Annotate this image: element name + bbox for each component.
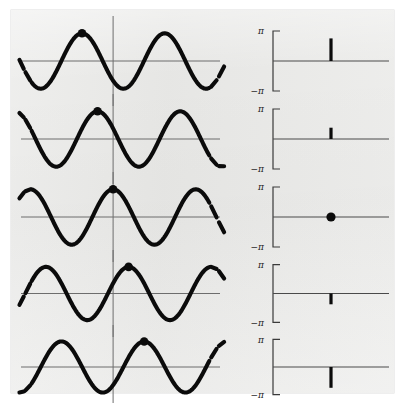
waveform-continuation-dash-right [219, 66, 224, 76]
phase-tick-label-neg-pi: −π [251, 242, 266, 252]
waveform-peak-marker [140, 337, 149, 346]
figure-panel: π−ππ−ππ−ππ−ππ−π [11, 10, 394, 393]
waveform-continuation-dash-left [25, 72, 30, 80]
phase-panel: π−π [243, 178, 393, 256]
waveform-continuation-dash-right [211, 159, 216, 165]
phase-panel: π−π [243, 100, 393, 178]
waveform-continuation-dash-left [25, 385, 30, 390]
phase-tick-label-pi: π [257, 26, 265, 36]
waveform-continuation-dash-left [19, 297, 23, 305]
waveform-peak-marker [93, 107, 102, 116]
waveform-continuation-dash-right [219, 342, 224, 346]
waveform-panel [13, 331, 228, 403]
waveform-continuation-dash-left [19, 392, 23, 393]
phase-tick-label-pi: π [257, 182, 265, 192]
waveform-peak-marker [109, 185, 118, 194]
figure-row: π−π [11, 331, 394, 403]
phase-tick-label-pi: π [257, 260, 265, 270]
figure-row: π−π [11, 22, 394, 100]
waveform-continuation-dash-right [219, 222, 224, 232]
figure-row: π−π [11, 256, 394, 331]
waveform-panel [13, 178, 228, 256]
phase-tick-label-pi: π [257, 335, 265, 345]
waveform-panel [13, 256, 228, 331]
phase-value-dot [326, 212, 335, 221]
phase-panel: π−π [243, 22, 393, 100]
waveform-continuation-dash-left [25, 189, 30, 191]
waveform-continuation-dash-right [211, 349, 216, 358]
waveform-continuation-dash-left [19, 113, 23, 117]
waveform-continuation-dash-right [211, 80, 216, 86]
waveform-peak-marker [78, 29, 87, 38]
phase-tick-label-neg-pi: −π [251, 390, 266, 400]
waveform-continuation-dash-right [211, 267, 216, 269]
waveform-continuation-dash-right [211, 206, 216, 217]
waveform-panel [13, 22, 228, 100]
waveform-continuation-dash-left [25, 120, 30, 128]
phase-tick-label-pi: π [257, 104, 265, 114]
phase-panel: π−π [243, 331, 393, 403]
waveform-continuation-dash-left [19, 193, 23, 199]
phase-tick-label-neg-pi: −π [251, 86, 266, 96]
phase-panel: π−π [243, 256, 393, 331]
phase-tick-label-neg-pi: −π [251, 318, 266, 328]
figure-row: π−π [11, 100, 394, 178]
waveform-continuation-dash-right [219, 271, 224, 278]
phase-tick-label-neg-pi: −π [251, 164, 266, 174]
waveform-continuation-dash-left [25, 284, 30, 293]
figure-row: π−π [11, 178, 394, 256]
waveform-peak-marker [124, 263, 133, 272]
waveform-panel [13, 100, 228, 178]
